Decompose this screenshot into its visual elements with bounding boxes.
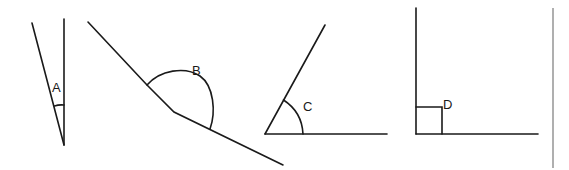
angle-c-ray-slanted bbox=[265, 25, 325, 134]
angle-d-label: D bbox=[443, 97, 452, 112]
angle-c-figure: C bbox=[265, 25, 387, 134]
angle-a-arc bbox=[55, 105, 65, 106]
angle-b-arc bbox=[147, 70, 213, 129]
angle-c-arc bbox=[284, 100, 304, 134]
angle-d-figure: D bbox=[416, 8, 538, 134]
angle-a-label: A bbox=[52, 80, 61, 95]
angles-diagram: A B C D bbox=[0, 0, 569, 170]
angle-d-right-angle-marker bbox=[416, 107, 442, 134]
angle-b-figure: B bbox=[88, 22, 283, 165]
angle-b-label: B bbox=[192, 63, 201, 78]
angle-a-figure: A bbox=[32, 19, 64, 145]
angle-b-rays bbox=[88, 22, 283, 165]
angle-c-label: C bbox=[303, 99, 312, 114]
